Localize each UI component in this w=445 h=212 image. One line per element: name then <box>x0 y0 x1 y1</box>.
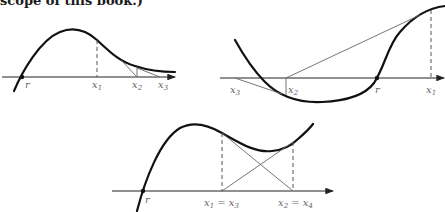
x1-label: x1 <box>92 79 102 92</box>
root-label: r <box>375 84 381 95</box>
root-point <box>20 75 24 79</box>
x1-label: x1 <box>426 84 436 97</box>
x2-label: x2 <box>288 84 299 97</box>
tangent-line-2 <box>235 78 282 94</box>
root-label: r <box>25 79 31 90</box>
x1-eq-x3-label: x1 = x3 <box>204 197 240 210</box>
x2-eq-x4-label: x2 = x4 <box>278 197 313 210</box>
diagram-diverging: r x1 x2 x3 <box>220 6 445 102</box>
function-curve <box>235 6 445 102</box>
tangent-line-1 <box>121 60 137 77</box>
tangent-line-1 <box>222 133 293 191</box>
diagram-converging: r x1 x2 x3 <box>2 30 175 92</box>
root-label: r <box>145 194 151 205</box>
x3-label: x3 <box>158 79 169 92</box>
tangent-line-1 <box>286 15 420 78</box>
root-point <box>375 76 379 80</box>
x3-label: x3 <box>230 84 241 97</box>
newtons-method-diagrams: r x1 x2 x3 r x1 x2 x3 r x1 = x3 x2 = x4 <box>0 0 445 212</box>
diagram-cycling: r x1 = x3 x2 = x4 <box>112 124 333 211</box>
x2-label: x2 <box>132 79 143 92</box>
root-point <box>141 189 145 193</box>
